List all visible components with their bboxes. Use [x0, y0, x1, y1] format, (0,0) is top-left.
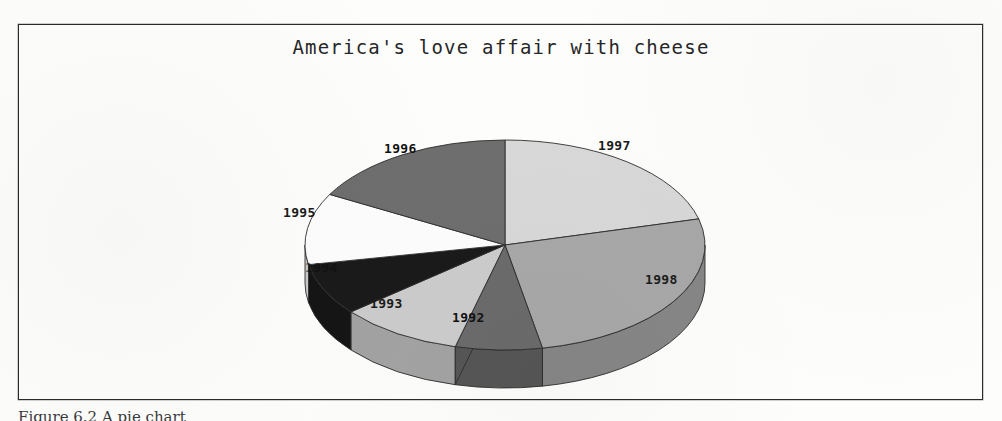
slice-label-1993: 1993 — [370, 296, 403, 311]
slice-label-1994: 1994 — [305, 260, 338, 275]
pie-top-faces — [305, 140, 705, 350]
slice-label-1992: 1992 — [452, 310, 485, 325]
pie-chart-svg — [18, 24, 983, 400]
slice-label-1997: 1997 — [598, 138, 631, 153]
scanned-page: America's love affair with cheese 199719… — [0, 0, 1002, 421]
slice-label-1998: 1998 — [645, 272, 678, 287]
figure-caption: Figure 6.2 A pie chart — [18, 408, 186, 421]
slice-label-1995: 1995 — [283, 205, 316, 220]
slice-label-1996: 1996 — [384, 141, 417, 156]
pie-chart — [18, 24, 983, 400]
